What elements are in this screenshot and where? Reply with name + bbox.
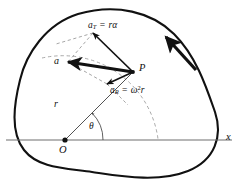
radius-line bbox=[65, 72, 133, 140]
aT-equals: = bbox=[96, 20, 108, 30]
rotational-acceleration-figure: aT = rα aR = ω2r a P r θ O x bbox=[0, 0, 238, 189]
origin-label: O bbox=[59, 145, 67, 156]
radius-label: r bbox=[54, 99, 58, 109]
construction-line-aT-extend bbox=[56, 33, 93, 44]
point-P-label: P bbox=[139, 63, 145, 74]
aR-equals: = bbox=[119, 85, 131, 95]
aT-alpha: α bbox=[112, 20, 117, 30]
tangential-acceleration-label: aT = rα bbox=[88, 21, 117, 31]
resultant-acceleration-label: a bbox=[54, 56, 59, 66]
origin-marker bbox=[62, 137, 67, 142]
theta-label: θ bbox=[89, 122, 94, 132]
x-axis-label: x bbox=[226, 132, 231, 143]
point-P-marker bbox=[131, 70, 135, 74]
aR-omega: ω bbox=[131, 85, 138, 95]
radial-acceleration-label: aR = ω2r bbox=[110, 85, 144, 96]
aR-r: r bbox=[141, 85, 145, 95]
